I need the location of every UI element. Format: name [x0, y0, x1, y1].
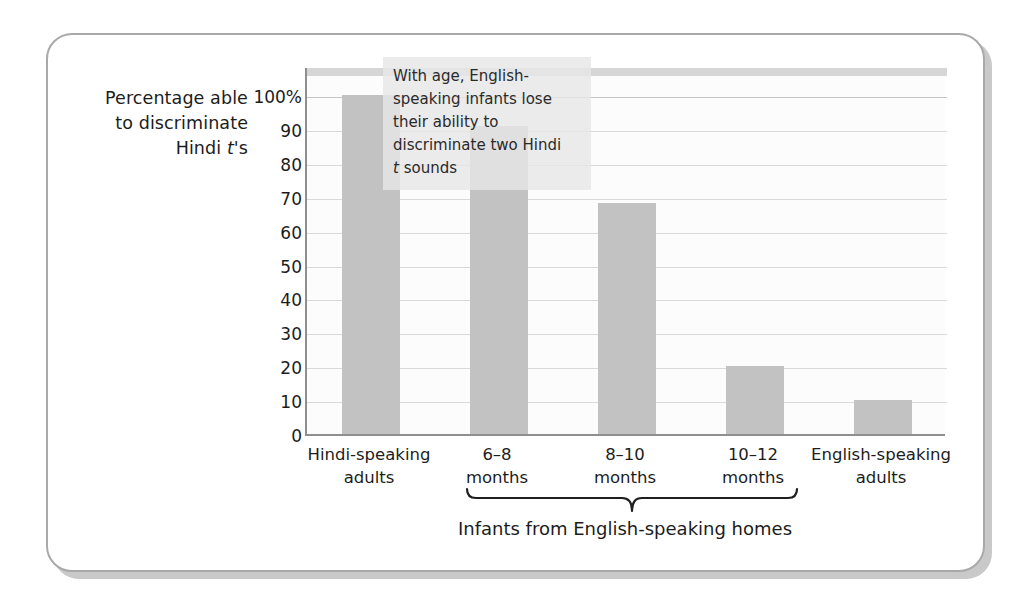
y-axis-title-t-italic: t	[227, 138, 234, 158]
y-tick-label-50: 50	[240, 257, 302, 277]
y-tick-label-40: 40	[240, 290, 302, 310]
group-brace-icon	[462, 487, 802, 513]
y-axis-title-line-3: Hindi t's	[58, 136, 248, 161]
x-tick-label-5: English-speakingadults	[805, 443, 957, 489]
bar-3	[598, 203, 656, 434]
y-tick-label-10: 10	[240, 392, 302, 412]
y-axis-tick-labels: 100%9080706050403020100	[236, 68, 302, 436]
group-brace	[462, 487, 802, 513]
annotation-sounds: sounds	[399, 159, 457, 177]
annotation-line-4: discriminate two Hindi	[393, 134, 581, 157]
y-tick-label-30: 30	[240, 324, 302, 344]
chart-annotation: With age, English- speaking infants lose…	[383, 57, 591, 190]
bar-5	[854, 400, 912, 434]
y-tick-label-80: 80	[240, 155, 302, 175]
y-tick-label-90: 90	[240, 121, 302, 141]
bar-4	[726, 366, 784, 434]
annotation-line-1: With age, English-	[393, 65, 581, 88]
x-tick-label-5-line-2: adults	[805, 466, 957, 489]
y-axis-title-line-1: Percentage able	[58, 86, 248, 111]
y-axis-title-hindi: Hindi	[176, 138, 227, 158]
y-axis-title: Percentage able to discriminate Hindi t'…	[58, 86, 248, 161]
group-caption: Infants from English-speaking homes	[305, 518, 945, 539]
annotation-line-3: their ability to	[393, 111, 581, 134]
y-tick-label-70: 70	[240, 189, 302, 209]
annotation-line-5: t sounds	[393, 157, 581, 180]
annotation-line-2: speaking infants lose	[393, 88, 581, 111]
y-tick-label-20: 20	[240, 358, 302, 378]
x-axis-tick-labels: Hindi-speakingadults6–8months8–10months1…	[305, 443, 945, 491]
y-tick-label-100: 100%	[240, 87, 302, 107]
y-axis-title-line-2: to discriminate	[58, 111, 248, 136]
x-tick-label-5-line-1: English-speaking	[805, 443, 957, 466]
y-tick-label-60: 60	[240, 223, 302, 243]
gridline-70	[307, 199, 947, 200]
